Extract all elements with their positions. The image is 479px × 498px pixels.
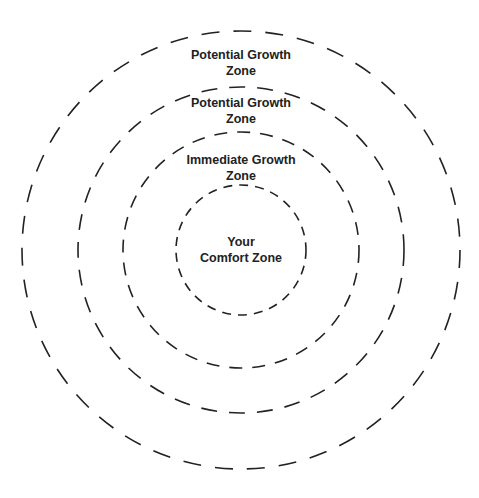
label-line-1: Potential Growth [191, 47, 291, 63]
label-line-2: Zone [191, 63, 291, 79]
label-line-2: Comfort Zone [200, 250, 282, 266]
label-line-2: Zone [186, 168, 295, 184]
immediate-growth-label: Immediate Growth Zone [186, 152, 295, 184]
label-line-2: Zone [191, 111, 291, 127]
outer-potential-growth-label: Potential Growth Zone [191, 47, 291, 79]
comfort-zone-label: Your Comfort Zone [200, 234, 282, 266]
second-potential-growth-label: Potential Growth Zone [191, 95, 291, 127]
label-line-1: Potential Growth [191, 95, 291, 111]
label-line-1: Immediate Growth [186, 152, 295, 168]
label-line-1: Your [200, 234, 282, 250]
